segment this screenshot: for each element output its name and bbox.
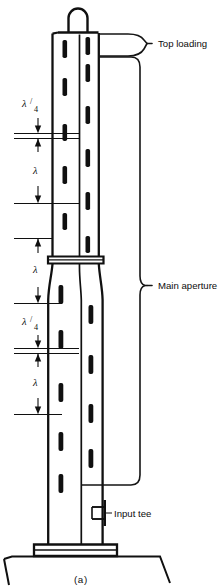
- lambda-symbol: λ: [32, 165, 38, 176]
- top-loading-brace: [99, 34, 152, 56]
- slot-group-upper-side: [86, 37, 91, 253]
- lambda-symbol: λ: [21, 98, 27, 109]
- dimension-labels-group: λ / 4 λ λ λ / 4 λ: [21, 97, 38, 388]
- mid-flange: [48, 257, 104, 264]
- callout-labels-group: Top loading Main aperture Input tee: [114, 38, 217, 519]
- fraction-slash: /: [30, 315, 33, 324]
- lambda-symbol: λ: [21, 316, 27, 327]
- callout-label-input-tee: Input tee: [114, 508, 151, 519]
- dim-arrow-quarter-upper: [35, 118, 41, 133]
- figure-caption: (a): [74, 574, 88, 585]
- antenna-diagram-svg: λ / 4 λ λ λ / 4 λ: [0, 0, 223, 588]
- divisor: 4: [34, 323, 38, 332]
- dim-arrow-quarter-lower: [35, 335, 41, 348]
- antenna-figure: λ / 4 λ λ λ / 4 λ: [0, 0, 223, 588]
- lower-mast-body: [48, 264, 102, 545]
- callout-label-top-loading: Top loading: [158, 38, 207, 49]
- dim-label-quarter-wave-lower: λ / 4: [21, 315, 38, 332]
- upper-mast-body: [53, 33, 99, 257]
- dimension-lines-group: [14, 118, 79, 415]
- slot-group-upper-front: [63, 40, 68, 230]
- divisor: 4: [34, 105, 38, 114]
- base-plate: [34, 545, 117, 557]
- dim-label-full-wave-upper: λ: [32, 165, 38, 176]
- fraction-slash: /: [30, 97, 33, 106]
- dim-label-full-wave-middle: λ: [32, 264, 38, 275]
- dim-label-full-wave-lower: λ: [32, 377, 38, 388]
- callout-label-main-aperture: Main aperture: [158, 280, 217, 291]
- dim-label-quarter-wave-upper: λ / 4: [21, 97, 38, 114]
- slot-group-lower-side: [89, 305, 94, 468]
- slot-group-lower-front: [59, 285, 64, 493]
- lambda-symbol: λ: [32, 377, 38, 388]
- lambda-symbol: λ: [32, 264, 38, 275]
- top-arch-cap: [53, 9, 99, 34]
